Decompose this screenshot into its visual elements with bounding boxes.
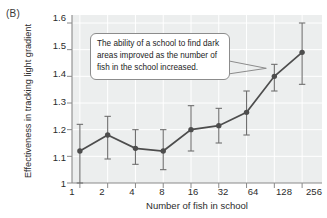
- figure-panel-b: (B) Effectiveness in tracking light grad…: [0, 0, 327, 218]
- callout-annotation: The ability of a school to find dark are…: [90, 33, 230, 80]
